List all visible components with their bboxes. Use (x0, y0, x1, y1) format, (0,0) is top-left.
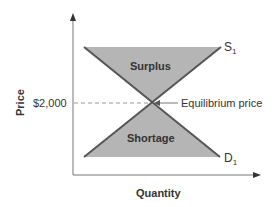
shortage-label: Shortage (127, 132, 175, 144)
supply-label: S1 (224, 40, 237, 56)
supply-demand-diagram: Equilibrium price $2,000 Surplus Shortag… (0, 0, 275, 207)
demand-label: D1 (224, 151, 238, 167)
x-axis-arrow-icon (253, 172, 261, 178)
surplus-label: Surplus (130, 60, 171, 72)
price-tick-label: $2,000 (33, 97, 67, 109)
surplus-region (84, 47, 221, 103)
equilibrium-label: Equilibrium price (181, 97, 262, 109)
y-axis-label: Price (14, 89, 26, 116)
shortage-region (84, 103, 220, 157)
y-axis-arrow-icon (70, 13, 76, 21)
x-axis-label: Quantity (136, 187, 181, 199)
